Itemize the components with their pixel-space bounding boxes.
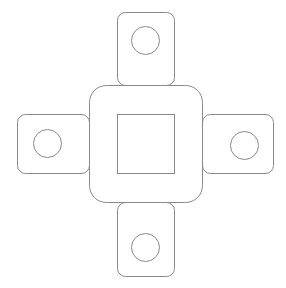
tab-plate-top — [118, 13, 175, 86]
tab-top — [118, 13, 175, 86]
tab-left — [18, 115, 90, 174]
tab-plate-bottom — [118, 203, 175, 277]
center-plate — [90, 86, 203, 203]
bracket-diagram — [0, 0, 286, 288]
tab-plate-right — [203, 115, 274, 174]
tab-plate-left — [18, 115, 90, 174]
tab-right — [203, 115, 274, 174]
tab-bottom — [118, 203, 175, 277]
center-body — [90, 86, 203, 203]
bracket-drawing — [0, 0, 286, 288]
